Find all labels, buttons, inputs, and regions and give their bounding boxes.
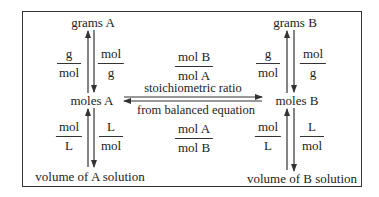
fraction-b-mol-per-l: mol L bbox=[255, 120, 281, 153]
fraction-denominator: g bbox=[310, 64, 317, 80]
arrows-layer bbox=[0, 0, 379, 197]
fraction-numerator: mol bbox=[255, 120, 281, 137]
fraction-a-l-per-mol: L mol bbox=[99, 120, 123, 153]
fraction-denominator: mol bbox=[302, 137, 322, 153]
node-volume-a: volume of A solution bbox=[35, 170, 144, 184]
fraction-numerator: mol bbox=[300, 47, 326, 64]
fraction-mol-b-per-mol-a: mol B mol A bbox=[175, 50, 213, 83]
fraction-numerator: mol A bbox=[175, 122, 213, 139]
fraction-denominator: mol bbox=[258, 64, 278, 80]
fraction-denominator: mol bbox=[101, 137, 121, 153]
fraction-numerator: g bbox=[256, 47, 280, 64]
fraction-denominator: mol B bbox=[178, 139, 210, 155]
fraction-numerator: mol bbox=[56, 120, 82, 137]
fraction-numerator: L bbox=[99, 120, 123, 137]
node-moles-b: moles B bbox=[276, 94, 319, 108]
node-grams-b: grams B bbox=[273, 16, 317, 30]
fraction-a-g-per-mol: g mol bbox=[57, 47, 81, 80]
fraction-mol-a-per-mol-b: mol A mol B bbox=[175, 122, 213, 155]
fraction-numerator: L bbox=[300, 120, 324, 137]
fraction-denominator: mol bbox=[59, 64, 79, 80]
fraction-a-mol-per-l: mol L bbox=[56, 120, 82, 153]
balanced-equation-label: from balanced equation bbox=[137, 104, 255, 117]
node-volume-b: volume of B solution bbox=[247, 172, 357, 186]
fraction-numerator: mol bbox=[98, 47, 124, 64]
fraction-numerator: mol B bbox=[175, 50, 213, 67]
fraction-b-mol-per-g: mol g bbox=[300, 47, 326, 80]
fraction-numerator: g bbox=[57, 47, 81, 64]
fraction-denominator: L bbox=[264, 137, 272, 153]
node-grams-a: grams A bbox=[71, 16, 115, 30]
fraction-b-g-per-mol: g mol bbox=[256, 47, 280, 80]
fraction-denominator: L bbox=[65, 137, 73, 153]
node-moles-a: moles A bbox=[71, 94, 114, 108]
fraction-a-mol-per-g: mol g bbox=[98, 47, 124, 80]
fraction-b-l-per-mol: L mol bbox=[300, 120, 324, 153]
stoichiometric-ratio-label: stoichiometric ratio bbox=[144, 82, 242, 95]
fraction-denominator: g bbox=[108, 64, 115, 80]
